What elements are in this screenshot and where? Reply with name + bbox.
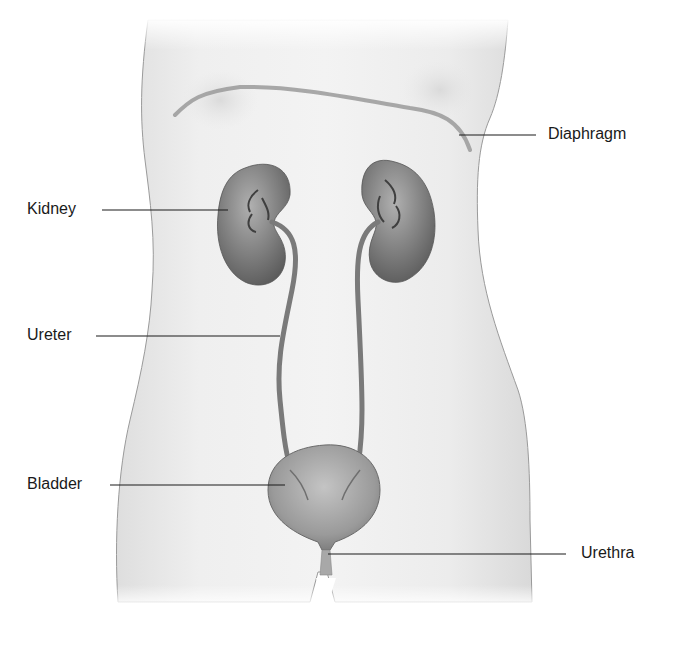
label-kidney: Kidney bbox=[27, 200, 76, 218]
breast-shading-right bbox=[402, 60, 478, 120]
anatomy-illustration bbox=[0, 0, 675, 655]
label-diaphragm: Diaphragm bbox=[548, 125, 626, 143]
label-urethra: Urethra bbox=[581, 544, 634, 562]
urinary-system-diagram: Diaphragm Kidney Ureter Bladder Urethra bbox=[0, 0, 675, 655]
label-bladder: Bladder bbox=[27, 475, 82, 493]
label-ureter: Ureter bbox=[27, 326, 71, 344]
